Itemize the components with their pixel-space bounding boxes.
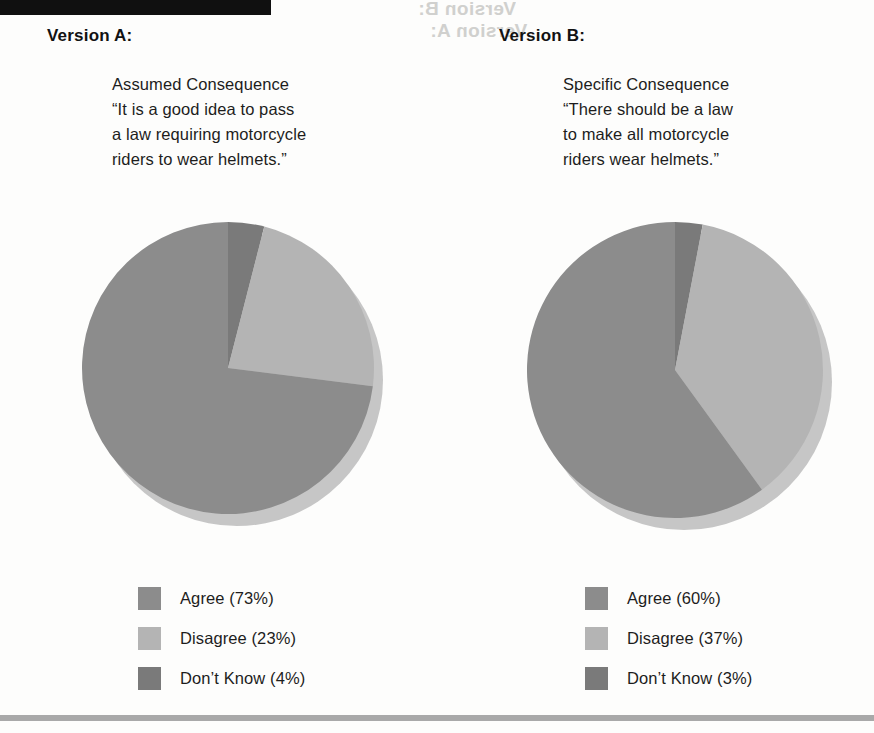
version-a-pie-chart (82, 186, 392, 570)
version-a-question: Assumed Consequence “It is a good idea t… (112, 72, 306, 172)
version-b-legend: Agree (60%) Disagree (37%) Don’t Know (3… (585, 578, 752, 698)
legend-item-dont-know: Don’t Know (3%) (585, 658, 752, 698)
legend-swatch-disagree (585, 627, 608, 650)
legend-label-agree: Agree (60%) (627, 589, 721, 608)
legend-label-disagree: Disagree (37%) (627, 629, 743, 648)
version-b-pie-chart (527, 186, 841, 570)
legend-item-dont-know: Don’t Know (4%) (138, 658, 305, 698)
legend-label-dont-know: Don’t Know (3%) (627, 669, 752, 688)
version-b-panel: Version B: Specific Consequence “There s… (437, 0, 874, 715)
legend-item-disagree: Disagree (23%) (138, 618, 305, 658)
version-b-question: Specific Consequence “There should be a … (563, 72, 733, 172)
legend-label-dont-know: Don’t Know (4%) (180, 669, 305, 688)
bottom-divider-rule (0, 715, 874, 721)
legend-swatch-agree (138, 587, 161, 610)
legend-item-agree: Agree (60%) (585, 578, 752, 618)
pie-svg-b (527, 186, 841, 566)
version-a-legend: Agree (73%) Disagree (23%) Don’t Know (4… (138, 578, 305, 698)
version-a-panel: Version A: Assumed Consequence “It is a … (0, 0, 437, 715)
legend-swatch-dont-know (138, 667, 161, 690)
legend-swatch-agree (585, 587, 608, 610)
legend-label-disagree: Disagree (23%) (180, 629, 296, 648)
legend-swatch-dont-know (585, 667, 608, 690)
legend-label-agree: Agree (73%) (180, 589, 274, 608)
legend-item-agree: Agree (73%) (138, 578, 305, 618)
version-a-title: Version A: (47, 26, 132, 46)
pie-svg-a (82, 186, 392, 566)
version-b-title: Version B: (499, 26, 585, 46)
legend-swatch-disagree (138, 627, 161, 650)
legend-item-disagree: Disagree (37%) (585, 618, 752, 658)
